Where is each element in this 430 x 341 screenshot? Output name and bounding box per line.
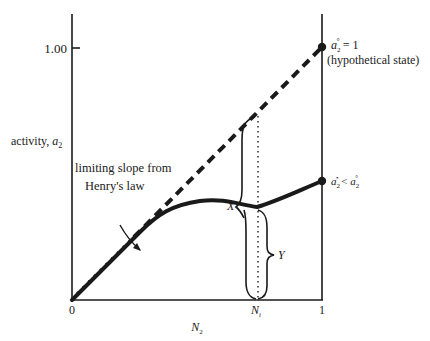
pure-solute-point <box>318 177 326 185</box>
x-axis-label: N2 <box>190 320 203 336</box>
henry-label-line1: limiting slope from <box>75 161 172 175</box>
x-tick-0: 0 <box>69 303 75 317</box>
y-brace-left <box>244 210 256 299</box>
pure-solute-label: a2• < a2° <box>331 174 360 190</box>
henry-label-line2: Henry's law <box>85 179 145 193</box>
x-tick-1: 1 <box>319 303 325 317</box>
x-brace-label: X <box>226 199 235 213</box>
activity-curve <box>72 181 322 300</box>
y-brace-label: Y <box>278 248 286 262</box>
y-tick-label: 1.00 <box>44 41 67 56</box>
activity-diagram: 1.00 activity, a2 limiting slope from He… <box>0 0 430 341</box>
standard-state-label: a2° = 1 <box>331 37 358 54</box>
y-brace <box>258 210 274 299</box>
x-tick-ni: Ni <box>250 303 261 319</box>
standard-state-point <box>318 43 326 51</box>
x-brace <box>236 117 255 218</box>
hypothetical-state-label: (hypothetical state) <box>327 53 419 67</box>
y-axis-label: activity, a2 <box>11 134 62 150</box>
